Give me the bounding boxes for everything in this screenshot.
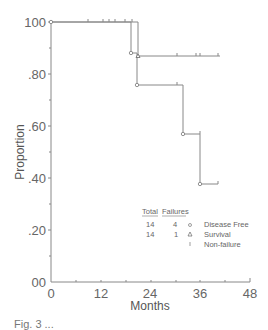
legend-failures: 1 xyxy=(174,230,178,239)
legend-failures: 4 xyxy=(173,220,177,229)
x-tick-label: 48 xyxy=(243,286,257,301)
x-ticks xyxy=(76,278,250,282)
y-tick-label: .20 xyxy=(28,223,46,238)
triangle-legend-icon xyxy=(188,232,192,236)
survival-curve xyxy=(51,22,220,56)
circle-marker-icon xyxy=(181,132,184,135)
disease-free-curve xyxy=(51,22,218,184)
y-tick-label: .40 xyxy=(28,171,46,186)
legend-label: Survival xyxy=(204,230,231,239)
circle-marker-icon xyxy=(135,83,138,86)
x-axis-title: Months xyxy=(130,299,169,313)
legend: Total Failures 14 4 Disease Free 14 1 Su… xyxy=(142,207,249,249)
circle-legend-icon xyxy=(189,224,192,227)
circle-marker-icon xyxy=(129,51,132,54)
legend-label: Non-failure xyxy=(204,240,241,249)
legend-header-total: Total xyxy=(142,207,158,216)
legend-label: Disease Free xyxy=(204,220,249,229)
y-tick-label: 100 xyxy=(24,15,46,30)
circle-marker-icon xyxy=(49,20,52,23)
x-tick-label: 0 xyxy=(47,286,54,301)
legend-header-failures: Failures xyxy=(162,207,189,216)
circle-marker-icon xyxy=(198,182,201,185)
y-tick-label: .60 xyxy=(28,119,46,134)
y-axis-title: Proportion xyxy=(13,124,27,179)
y-tick-label: 00 xyxy=(32,275,46,290)
legend-total: 14 xyxy=(146,220,154,229)
censor-ticks xyxy=(88,19,218,184)
x-tick-label: 12 xyxy=(94,286,108,301)
legend-total: 14 xyxy=(146,230,154,239)
y-tick-label: .80 xyxy=(28,67,46,82)
figure-caption: Fig. 3 ... xyxy=(14,318,54,330)
x-tick-label: 36 xyxy=(193,286,207,301)
